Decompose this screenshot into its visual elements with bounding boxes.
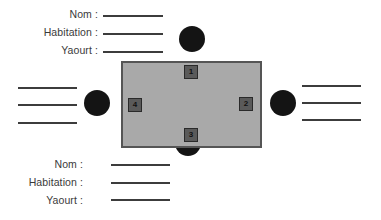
top-habitation-blank[interactable] xyxy=(103,33,163,35)
left-blank-1[interactable] xyxy=(18,87,77,89)
bottom-habitation-label: Habitation : xyxy=(3,176,83,188)
seat-4: 4 xyxy=(128,98,142,112)
person-right-icon xyxy=(270,90,296,116)
seat-2: 2 xyxy=(239,97,253,111)
seat-3: 3 xyxy=(184,128,198,142)
person-left-icon xyxy=(84,90,110,116)
top-name-blank[interactable] xyxy=(103,15,163,17)
left-blank-3[interactable] xyxy=(18,122,77,124)
seat-1: 1 xyxy=(184,65,198,79)
bottom-yaourt-blank[interactable] xyxy=(111,199,170,201)
bottom-name-label: Nom : xyxy=(3,158,83,170)
right-blank-2[interactable] xyxy=(302,102,361,104)
right-blank-1[interactable] xyxy=(302,85,361,87)
bottom-name-blank[interactable] xyxy=(111,164,170,166)
top-yaourt-blank[interactable] xyxy=(103,51,163,53)
left-blank-2[interactable] xyxy=(18,104,77,106)
top-name-label: Nom : xyxy=(18,8,98,20)
top-habitation-label: Habitation : xyxy=(18,26,98,38)
right-blank-3[interactable] xyxy=(302,119,361,121)
bottom-yaourt-label: Yaourt : xyxy=(3,194,83,206)
person-top-icon xyxy=(179,26,205,52)
top-yaourt-label: Yaourt : xyxy=(18,44,98,56)
bottom-habitation-blank[interactable] xyxy=(111,182,170,184)
